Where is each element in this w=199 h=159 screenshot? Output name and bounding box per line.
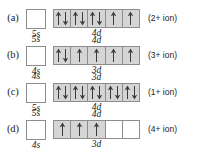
spin-up-arrow-icon (76, 122, 83, 137)
d-orbital-label-secondary: 4d (92, 110, 102, 120)
orbital-box-single (53, 120, 71, 139)
orbital-row: (d)4s5s3d4d(4+ ion) (0, 111, 199, 148)
d-orbital-group: 3d4d (53, 120, 140, 139)
orbital-box-single (70, 120, 88, 139)
orbital-box-paired (105, 83, 123, 102)
s-orbital-boxes (26, 120, 46, 140)
electron-arrows (71, 47, 87, 64)
electron-arrows (54, 47, 70, 64)
orbital-box-single (105, 9, 123, 28)
electron-arrows (71, 84, 87, 101)
s-orbital-label-secondary: 5s (32, 109, 40, 119)
orbital-box-single (122, 46, 140, 65)
orbital-box-paired (122, 83, 140, 102)
orbital-row: (c)5s4s4d3d(1+ ion) (0, 74, 199, 111)
spin-up-arrow-icon (89, 85, 96, 100)
spin-down-arrow-icon (114, 85, 121, 100)
orbital-box-paired (53, 9, 71, 28)
spin-down-arrow-icon (96, 11, 103, 26)
d-orbital-boxes (53, 46, 140, 65)
s-orbital-label-secondary: 5s (32, 35, 40, 45)
electron-arrows (123, 10, 139, 27)
spin-down-arrow-icon (79, 11, 86, 26)
spin-up-arrow-icon (110, 48, 117, 63)
d-orbital-boxes (53, 83, 140, 102)
spin-up-arrow-icon (55, 48, 62, 63)
electron-arrows (123, 84, 139, 101)
row-letter-label: (b) (0, 50, 26, 61)
d-orbital-group: 4d (53, 9, 140, 28)
row-letter-label: (c) (0, 87, 26, 98)
orbital-box-empty (26, 83, 46, 103)
orbital-box-paired (70, 83, 88, 102)
electron-arrows (106, 84, 122, 101)
s-orbital-group: 5s4s (26, 83, 46, 103)
s-orbital-boxes (26, 9, 46, 29)
spin-down-arrow-icon (62, 11, 69, 26)
spin-up-arrow-icon (93, 122, 100, 137)
spin-up-arrow-icon (76, 48, 83, 63)
electron-arrows (71, 10, 87, 27)
spin-up-arrow-icon (124, 85, 131, 100)
s-orbital-boxes (26, 83, 46, 103)
ion-charge-label: (4+ ion) (148, 125, 177, 134)
spin-up-arrow-icon (59, 122, 66, 137)
electron-arrows (88, 47, 104, 64)
row-letter-label: (d) (0, 124, 26, 135)
spin-up-arrow-icon (127, 11, 134, 26)
s-orbital-group: 4s5s (26, 46, 46, 66)
electron-arrows (123, 47, 139, 64)
electron-arrows (54, 10, 70, 27)
electron-arrows (54, 121, 70, 138)
orbital-box-paired (70, 9, 88, 28)
electron-arrows (54, 84, 70, 101)
s-orbital-label-secondary: 4s (32, 72, 40, 82)
orbital-box-paired (87, 9, 105, 28)
spin-up-arrow-icon (93, 48, 100, 63)
s-orbital-group: 4s5s (26, 120, 46, 140)
orbital-box-paired (53, 46, 71, 65)
orbital-box-paired (87, 83, 105, 102)
spin-up-arrow-icon (107, 85, 114, 100)
ion-charge-label: (3+ ion) (148, 51, 177, 60)
electron-arrows (71, 121, 87, 138)
orbital-diagram-figure: (a)5s4d(2+ ion)(b)4s5s3d4d(3+ ion)(c)5s4… (0, 0, 199, 159)
spin-up-arrow-icon (72, 11, 79, 26)
electron-arrows (106, 47, 122, 64)
orbital-row: (b)4s5s3d4d(3+ ion) (0, 37, 199, 74)
electron-arrows (88, 84, 104, 101)
electron-arrows (106, 10, 122, 27)
spin-up-arrow-icon (110, 11, 117, 26)
spin-up-arrow-icon (72, 85, 79, 100)
d-orbital-boxes (53, 9, 140, 28)
spin-down-arrow-icon (131, 85, 138, 100)
spin-up-arrow-icon (55, 85, 62, 100)
spin-down-arrow-icon (62, 48, 69, 63)
electron-arrows (88, 10, 104, 27)
spin-up-arrow-icon (55, 11, 62, 26)
orbital-row: (a)5s4d(2+ ion) (0, 0, 199, 37)
ion-charge-label: (2+ ion) (148, 14, 177, 23)
orbital-box-empty (26, 46, 46, 66)
row-letter-label: (a) (0, 13, 26, 24)
d-orbital-boxes (53, 120, 140, 139)
s-orbital-label: 4s (32, 141, 40, 151)
orbital-box-empty (122, 120, 140, 139)
orbital-box-single (105, 46, 123, 65)
spin-up-arrow-icon (89, 11, 96, 26)
spin-down-arrow-icon (62, 85, 69, 100)
spin-down-arrow-icon (79, 85, 86, 100)
spin-up-arrow-icon (127, 48, 134, 63)
spin-down-arrow-icon (96, 85, 103, 100)
orbital-box-single (70, 46, 88, 65)
d-orbital-label: 3d (92, 140, 102, 150)
electron-arrows (88, 121, 104, 138)
orbital-box-empty (26, 9, 46, 29)
s-orbital-group: 5s (26, 9, 46, 29)
d-orbital-group: 4d3d (53, 83, 140, 102)
orbital-box-single (87, 46, 105, 65)
d-orbital-group: 3d4d (53, 46, 140, 65)
orbital-box-empty (26, 120, 46, 140)
orbital-box-single (122, 9, 140, 28)
orbital-box-empty (105, 120, 123, 139)
